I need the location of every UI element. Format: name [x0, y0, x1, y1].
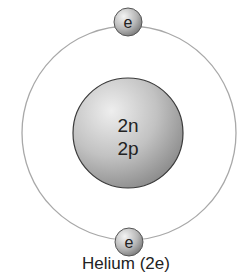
electron-bottom-label: e: [125, 234, 134, 251]
nucleus-neutrons: 2n: [117, 115, 138, 136]
diagram-caption: Helium (2e): [0, 252, 252, 276]
nucleus: 2n 2p: [73, 78, 183, 188]
electron-top: e: [114, 8, 142, 36]
atom-diagram: 2n 2p e e: [0, 0, 252, 276]
electron-top-label: e: [124, 14, 133, 31]
nucleus-protons: 2p: [117, 138, 138, 159]
